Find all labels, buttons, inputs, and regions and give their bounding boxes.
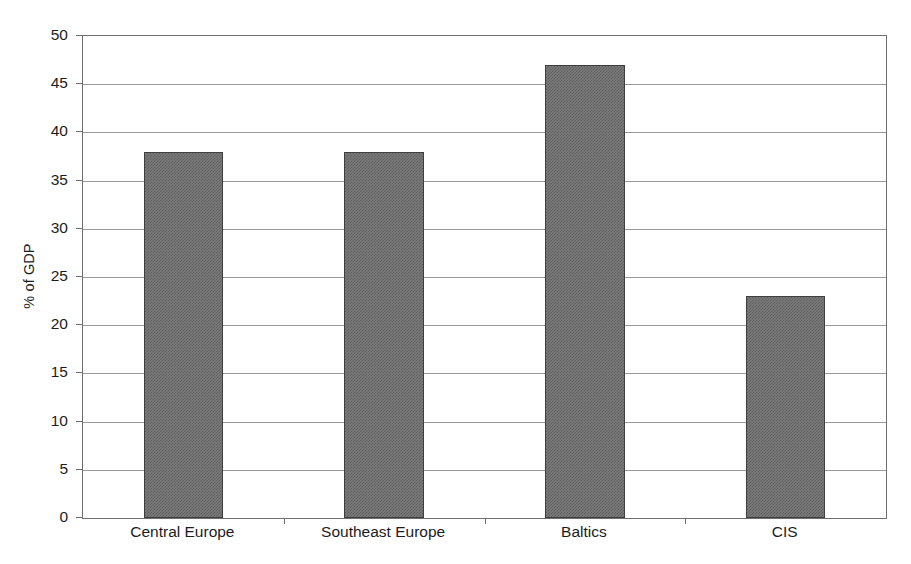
bar-central-europe xyxy=(144,152,223,518)
y-axis-tick-label: 15 xyxy=(10,363,68,381)
plot-area xyxy=(82,35,887,519)
x-axis-tick-label: Central Europe xyxy=(82,524,283,540)
bar-baltics xyxy=(545,65,624,518)
y-axis-tick-label: 10 xyxy=(10,412,68,430)
y-axis-tick-label: 25 xyxy=(10,267,68,285)
bar-chart-figure: % of GDP 05101520253035404550 Central Eu… xyxy=(0,0,911,564)
gridline xyxy=(83,132,886,133)
bar-southeast-europe xyxy=(344,152,423,518)
x-axis-tick-label: CIS xyxy=(684,524,885,540)
x-axis-tick-label: Southeast Europe xyxy=(283,524,484,540)
y-axis-tick-label: 20 xyxy=(10,315,68,333)
y-axis-tick-label: 50 xyxy=(10,26,68,44)
bar-cis xyxy=(746,296,825,518)
y-axis-tick-label: 35 xyxy=(10,171,68,189)
y-axis-tick-label: 45 xyxy=(10,74,68,92)
y-axis-tick-label: 5 xyxy=(10,460,68,478)
y-axis-tick-label: 30 xyxy=(10,219,68,237)
x-axis-tick-label: Baltics xyxy=(484,524,685,540)
y-axis-tick-label: 40 xyxy=(10,122,68,140)
gridline xyxy=(83,84,886,85)
y-axis-tick-label: 0 xyxy=(10,508,68,526)
